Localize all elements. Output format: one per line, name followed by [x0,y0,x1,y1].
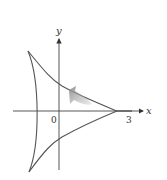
direction-arrow-icon [69,86,92,105]
x-axis-label: x [146,105,152,116]
y-axis-label: y [55,25,62,36]
origin-label: 0 [51,115,57,125]
x-tick-label-3: 3 [126,115,132,125]
deltoid-diagram: y x 0 3 [0,0,167,180]
deltoid-curve [28,51,132,172]
